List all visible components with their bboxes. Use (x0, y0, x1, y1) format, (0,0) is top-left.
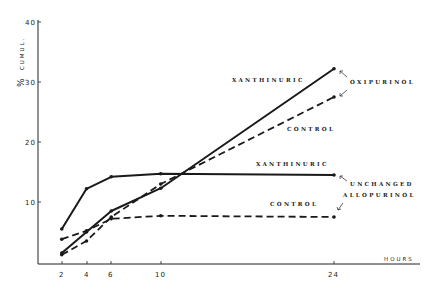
arrow-icon (340, 71, 347, 77)
data-point-marker (60, 237, 64, 241)
label-control-unchanged: CONTROL (270, 201, 318, 207)
y-ticks: 10 20 30 40 (25, 19, 41, 207)
x-tick-label: 10 (155, 271, 166, 279)
label-allopurinol: ALLOPURINOL (342, 192, 416, 198)
arrow-icon (340, 176, 347, 181)
data-point-marker (159, 182, 163, 186)
arrow-icon (340, 90, 347, 96)
x-tick-label: 6 (108, 271, 113, 279)
y-axis-title: CUMUL. (19, 37, 25, 70)
x-tick-label: 4 (84, 271, 89, 279)
label-control-oxipurinol: CONTROL (287, 126, 335, 132)
data-point-marker (159, 172, 163, 176)
x-tick-label: 2 (59, 271, 64, 279)
y-tick-label: 10 (25, 199, 36, 207)
label-xanthinuric-oxipurinol: XANTHINURIC (232, 77, 305, 83)
series-line-1 (62, 97, 334, 255)
x-tick-label: 24 (328, 271, 339, 279)
data-point-marker (332, 67, 336, 71)
data-point-marker (332, 95, 336, 99)
chart: 10 20 30 40 % CUMUL. 2 4 6 10 24 HOURS X… (0, 0, 441, 292)
data-point-marker (332, 173, 336, 177)
data-point-marker (85, 229, 89, 233)
data-point-marker (85, 239, 89, 243)
y-tick-label: 30 (25, 79, 36, 87)
data-point-marker (85, 187, 89, 191)
data-point-marker (109, 209, 113, 213)
label-oxipurinol: OXIPURINOL (350, 79, 415, 85)
y-tick-label: 20 (25, 139, 36, 147)
pointer-arrows (337, 71, 347, 210)
label-unchanged: UNCHANGED (350, 181, 414, 187)
data-point-marker (60, 227, 64, 231)
x-axis-title: HOURS (384, 256, 414, 262)
data-point-marker (60, 253, 64, 257)
data-point-marker (159, 186, 163, 190)
data-point-marker (332, 215, 336, 219)
data-point-marker (109, 217, 113, 221)
data-point-marker (159, 214, 163, 218)
label-xanthinuric-unchanged: XANTHINURIC (256, 161, 329, 167)
data-point-marker (109, 175, 113, 179)
y-axis-percent-symbol: % (16, 78, 26, 87)
y-tick-label: 40 (25, 19, 36, 27)
